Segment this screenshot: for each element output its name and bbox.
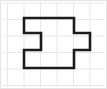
grid-polygon-figure: [0, 0, 107, 89]
grid-figure-container: [0, 0, 107, 89]
